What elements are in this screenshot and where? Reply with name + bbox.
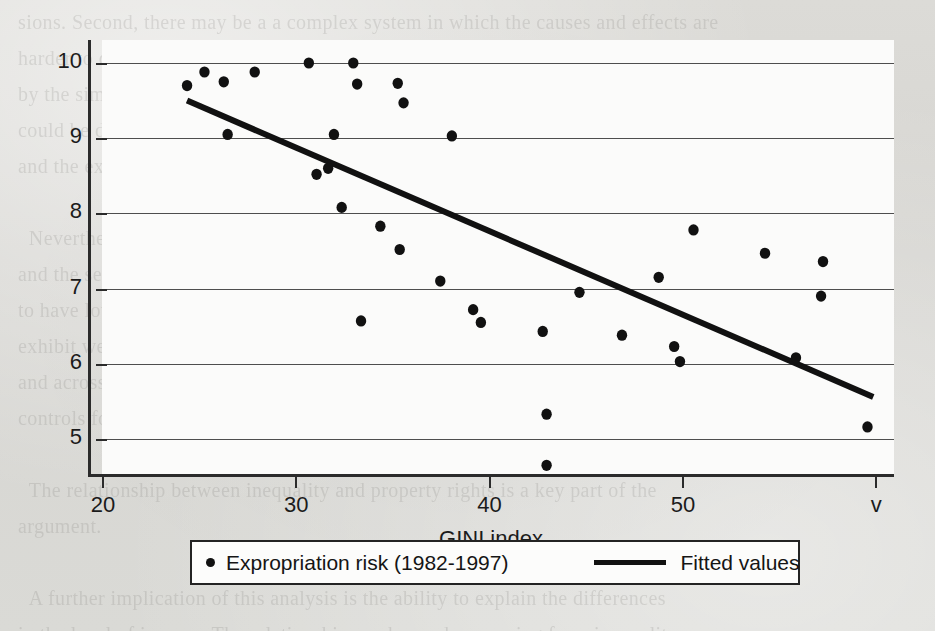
y-tick-mark-6 <box>96 364 107 366</box>
gridline-y-7 <box>102 289 894 290</box>
legend-label-expropriation-risk: Expropriation risk (1982-1997) <box>226 551 508 575</box>
x-tick-mark-60 <box>875 477 877 488</box>
y-tick-label-9: 9 <box>36 123 82 149</box>
gridline-y-9 <box>102 138 894 139</box>
y-tick-mark-10 <box>96 63 107 65</box>
x-axis-line <box>88 474 894 477</box>
x-tick-mark-40 <box>489 477 491 488</box>
chart-legend: Expropriation risk (1982-1997) Fitted va… <box>190 540 800 585</box>
x-tick-label-60: v <box>846 492 906 518</box>
y-tick-label-8: 8 <box>36 198 82 224</box>
x-tick-label-50: 50 <box>653 492 713 518</box>
y-axis-line <box>88 40 91 476</box>
figure-page: sions. Second, there may be a a complex … <box>0 0 935 631</box>
legend-dot-icon <box>206 558 215 567</box>
y-tick-label-6: 6 <box>36 349 82 375</box>
legend-label-fitted-values: Fitted values <box>680 551 799 575</box>
x-tick-mark-50 <box>682 477 684 488</box>
plot-area <box>102 40 894 476</box>
chart-figure: 5678910 20304050v GINI index <box>88 40 894 476</box>
gridline-y-5 <box>102 439 894 440</box>
x-tick-label-40: 40 <box>460 492 520 518</box>
y-tick-mark-9 <box>96 138 107 140</box>
y-tick-mark-5 <box>96 439 107 441</box>
x-tick-mark-30 <box>295 477 297 488</box>
y-tick-label-10: 10 <box>36 48 82 74</box>
legend-entry-expropriation-risk: Expropriation risk (1982-1997) <box>206 542 508 583</box>
gridline-y-6 <box>102 364 894 365</box>
plot-background <box>102 40 894 476</box>
x-tick-label-30: 30 <box>266 492 326 518</box>
x-tick-mark-20 <box>102 477 104 488</box>
x-tick-label-20: 20 <box>73 492 133 518</box>
legend-entry-fitted-values: Fitted values <box>594 542 799 583</box>
gridline-y-10 <box>102 63 894 64</box>
y-tick-mark-8 <box>96 213 107 215</box>
gridline-y-8 <box>102 213 894 214</box>
legend-line-icon <box>594 560 666 565</box>
y-tick-mark-7 <box>96 289 107 291</box>
y-tick-label-5: 5 <box>36 424 82 450</box>
y-tick-label-7: 7 <box>36 274 82 300</box>
